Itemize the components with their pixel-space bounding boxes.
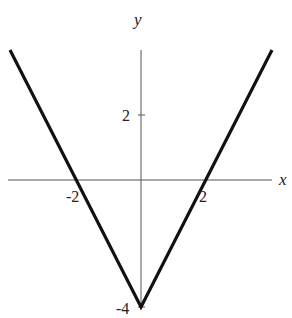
x-tick-label-neg2: -2 [66,188,79,205]
y-axis-label: y [132,10,142,29]
x-axis-label: x [278,170,287,189]
x-tick-label-2: 2 [199,188,207,205]
y-tick-label-neg4: -4 [116,300,129,317]
graph-canvas: y x 2 -4 -2 2 [0,0,292,318]
y-tick-label-2: 2 [122,107,130,124]
